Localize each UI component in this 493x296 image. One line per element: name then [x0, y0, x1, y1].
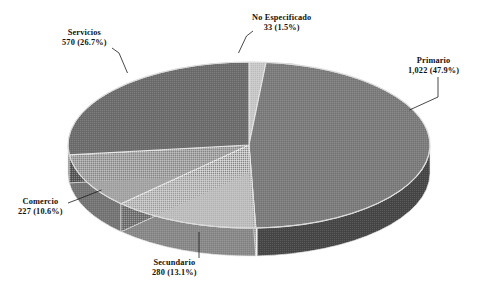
slice-label-secundario-name: Secundario [152, 258, 197, 268]
slice-label-primario: Primario 1,022 (47.9%) [408, 56, 459, 77]
slice-label-comercio-name: Comercio [18, 197, 63, 207]
slice-label-comercio-value: 227 (10.6%) [18, 207, 63, 217]
leader-line-no-especificado [239, 31, 254, 53]
slice-label-no-especificado: No Especificado 33 (1.5%) [252, 13, 311, 34]
slice-label-servicios-value: 570 (26.7%) [62, 38, 107, 48]
slice-label-comercio: Comercio 227 (10.6%) [18, 197, 63, 218]
slice-label-primario-name: Primario [408, 56, 459, 66]
slice-label-servicios: Servicios 570 (26.7%) [62, 28, 107, 49]
pie-texture-overlay [68, 62, 430, 256]
slice-label-no-especificado-value: 33 (1.5%) [252, 23, 311, 33]
slice-label-no-especificado-name: No Especificado [252, 13, 311, 23]
slice-label-primario-value: 1,022 (47.9%) [408, 66, 459, 76]
slice-label-servicios-name: Servicios [62, 28, 107, 38]
slice-label-secundario-value: 280 (13.1%) [152, 268, 197, 278]
leader-line-primario [410, 77, 439, 110]
pie-chart-figure: No Especificado 33 (1.5%) Primario 1,022… [0, 0, 493, 296]
slice-label-secundario: Secundario 280 (13.1%) [152, 258, 197, 279]
pie-slice-texture-servicios [68, 62, 249, 155]
leader-line-servicios [112, 48, 128, 73]
